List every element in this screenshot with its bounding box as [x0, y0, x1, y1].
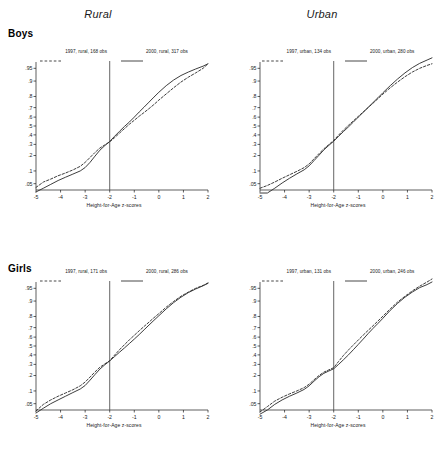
x-tick-label: 2: [431, 194, 434, 200]
y-tick-label: .6: [252, 334, 256, 340]
legend-label: 2000, rural, 286 obs: [146, 269, 188, 274]
y-tick-label: .5: [28, 123, 32, 129]
legend-entry: 2000, rural, 317 obs: [121, 49, 188, 54]
y-tick-label: .4: [252, 352, 256, 358]
legend-label: 1997, rural, 168 obs: [65, 49, 107, 54]
x-tick-label: 2: [431, 414, 434, 420]
y-tick-label: .8: [252, 93, 256, 99]
x-axis-title: Height-for-Age z-scores: [238, 202, 438, 208]
series-line: [260, 279, 432, 412]
legend-label: 1997, rural, 171 obs: [65, 269, 107, 274]
column-title-rural: Rural: [38, 8, 158, 20]
x-tick-label: -4: [58, 414, 63, 420]
y-tick-label: .1: [28, 168, 32, 174]
y-tick-label: .1: [252, 168, 256, 174]
x-tick-label: 0: [157, 414, 160, 420]
y-tick-label: .8: [28, 313, 32, 319]
y-tick-label: .05: [25, 401, 32, 407]
legend-entry: 1997, rural, 171 obs: [40, 269, 107, 274]
y-tick-label: .1: [252, 388, 256, 394]
y-tick-label: .2: [28, 372, 32, 378]
y-tick-label: .7: [252, 105, 256, 111]
series-line: [36, 283, 208, 411]
plot-area: .05.1.2.3.4.5.6.7.8.9.95-5-4-3-2-1012: [238, 276, 438, 436]
y-tick-label: .9: [28, 298, 32, 304]
legend-solid-line-icon: [121, 269, 143, 273]
x-tick-label: -1: [132, 414, 137, 420]
y-tick-label: .05: [249, 181, 256, 187]
y-tick-label: .8: [252, 313, 256, 319]
y-tick-label: .1: [28, 388, 32, 394]
plot-area: .05.1.2.3.4.5.6.7.8.9.95-5-4-3-2-1012: [238, 56, 438, 216]
y-tick-label: .95: [249, 285, 256, 291]
row-title-boys: Boys: [8, 28, 33, 39]
x-tick-label: -1: [132, 194, 137, 200]
series-line: [36, 283, 208, 413]
y-tick-label: .5: [252, 343, 256, 349]
y-tick-label: .6: [252, 114, 256, 120]
series-line: [260, 282, 432, 414]
x-tick-label: -1: [356, 414, 361, 420]
y-tick-label: .3: [252, 361, 256, 367]
legend-solid-line-icon: [345, 49, 367, 53]
panel-boys-urban: 1997, urban, 134 obs2000, urban, 280 obs…: [238, 44, 438, 234]
y-tick-label: .3: [252, 141, 256, 147]
legend-entry: 2000, urban, 246 obs: [345, 269, 414, 274]
x-tick-label: -3: [83, 194, 88, 200]
x-tick-label: -3: [83, 414, 88, 420]
x-axis-title: Height-for-Age z-scores: [14, 422, 214, 428]
x-tick-label: -3: [307, 414, 312, 420]
y-tick-label: .95: [25, 65, 32, 71]
panel-girls-urban: 1997, urban, 131 obs2000, urban, 246 obs…: [238, 264, 438, 454]
y-tick-label: .9: [28, 78, 32, 84]
y-tick-label: .95: [25, 285, 32, 291]
x-tick-label: -2: [331, 194, 336, 200]
figure-cdf-height-for-age: Rural Urban Boys Girls 1997, rural, 168 …: [0, 0, 442, 467]
legend-label: 2000, urban, 280 obs: [370, 49, 414, 54]
legend-dashed-line-icon: [40, 49, 62, 53]
legend-dashed-line-icon: [262, 49, 284, 53]
legend-entry: 2000, urban, 280 obs: [345, 49, 414, 54]
x-tick-label: 2: [207, 414, 210, 420]
y-tick-label: .7: [28, 325, 32, 331]
x-axis-title: Height-for-Age z-scores: [238, 422, 438, 428]
x-tick-label: 0: [381, 194, 384, 200]
legend-entry: 1997, urban, 131 obs: [262, 269, 331, 274]
legend-label: 2000, rural, 317 obs: [146, 49, 188, 54]
x-tick-label: 1: [406, 414, 409, 420]
x-tick-label: -2: [107, 414, 112, 420]
x-tick-label: 1: [406, 194, 409, 200]
x-axis-title: Height-for-Age z-scores: [14, 202, 214, 208]
series-line: [36, 64, 208, 192]
plot-area: .05.1.2.3.4.5.6.7.8.9.95-5-4-3-2-1012: [14, 56, 214, 216]
x-tick-label: -5: [258, 194, 263, 200]
x-tick-label: -1: [356, 194, 361, 200]
x-tick-label: -2: [331, 414, 336, 420]
legend-solid-line-icon: [345, 269, 367, 273]
legend-label: 1997, urban, 131 obs: [287, 269, 331, 274]
panel-girls-rural: 1997, rural, 171 obs2000, rural, 286 obs…: [14, 264, 214, 454]
x-tick-label: 0: [381, 414, 384, 420]
y-tick-label: .6: [28, 114, 32, 120]
legend-entry: 2000, rural, 286 obs: [121, 269, 188, 274]
y-tick-label: .7: [28, 105, 32, 111]
x-tick-label: -2: [107, 194, 112, 200]
x-tick-label: 2: [207, 194, 210, 200]
legend-dashed-line-icon: [40, 269, 62, 273]
legend-label: 2000, urban, 246 obs: [370, 269, 414, 274]
legend-dashed-line-icon: [262, 269, 284, 273]
y-tick-label: .2: [252, 372, 256, 378]
x-tick-label: -5: [34, 194, 39, 200]
x-tick-label: 1: [182, 194, 185, 200]
x-tick-label: -3: [307, 194, 312, 200]
column-title-urban: Urban: [262, 8, 382, 20]
y-tick-label: .2: [252, 152, 256, 158]
y-tick-label: .4: [28, 352, 32, 358]
legend-label: 1997, urban, 134 obs: [287, 49, 331, 54]
series-line: [36, 64, 208, 188]
y-tick-label: .7: [252, 325, 256, 331]
x-tick-label: -4: [282, 194, 287, 200]
y-tick-label: .5: [28, 343, 32, 349]
y-tick-label: .3: [28, 141, 32, 147]
y-tick-label: .4: [252, 132, 256, 138]
